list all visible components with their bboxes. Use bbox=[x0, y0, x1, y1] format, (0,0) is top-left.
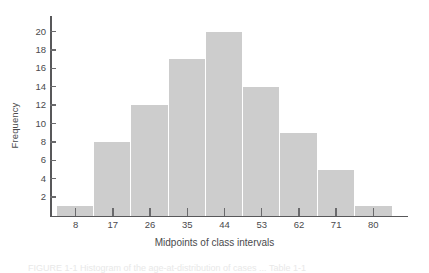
plot-area: 246810121416182081726354453627180 bbox=[0, 0, 429, 273]
y-axis-line bbox=[50, 16, 52, 217]
y-axis-tick-label-text: 10 bbox=[22, 119, 46, 129]
x-axis-tick-label: 53 bbox=[242, 220, 282, 230]
x-axis-tick-label: 44 bbox=[205, 220, 245, 230]
y-axis-tick bbox=[50, 86, 56, 87]
x-axis-tick-label: 80 bbox=[353, 220, 393, 230]
y-axis-tick-label-text: 18 bbox=[22, 45, 46, 55]
y-axis-tick-label-text: 6 bbox=[22, 155, 46, 165]
y-axis-tick-label: 20 bbox=[22, 27, 46, 37]
x-axis-tick bbox=[112, 208, 113, 216]
x-axis-tick bbox=[373, 208, 374, 216]
y-axis-tick bbox=[50, 31, 56, 32]
x-axis-tick bbox=[298, 208, 299, 216]
x-axis-tick bbox=[149, 208, 150, 216]
y-axis-tick-label-text: 16 bbox=[22, 63, 46, 73]
y-axis-tick bbox=[50, 196, 56, 197]
y-axis-tick bbox=[50, 123, 56, 124]
x-axis-line bbox=[50, 216, 408, 218]
y-axis-tick-label: 2 bbox=[22, 192, 46, 202]
x-axis-tick-label: 35 bbox=[167, 220, 207, 230]
y-axis-tick-label: 8 bbox=[22, 137, 46, 147]
x-axis-tick-label: 71 bbox=[316, 220, 356, 230]
x-axis-tick bbox=[75, 208, 76, 216]
y-axis-tick-label-text: 12 bbox=[22, 100, 46, 110]
x-axis-tick-label: 62 bbox=[279, 220, 319, 230]
y-axis-tick-label-text: 20 bbox=[22, 27, 46, 37]
y-axis-tick-label-text: 14 bbox=[22, 82, 46, 92]
y-axis-tick-label: 4 bbox=[22, 174, 46, 184]
x-axis-tick bbox=[224, 208, 225, 216]
x-axis-tick bbox=[335, 208, 336, 216]
histogram-bar bbox=[131, 105, 168, 215]
y-axis-tick-label: 18 bbox=[22, 45, 46, 55]
x-axis-title: Midpoints of class intervals bbox=[0, 237, 429, 248]
y-axis-tick-label-text: 8 bbox=[22, 137, 46, 147]
y-axis-tick bbox=[50, 104, 56, 105]
histogram-bar bbox=[206, 32, 243, 216]
y-axis-tick bbox=[50, 68, 56, 69]
x-axis-tick-label: 8 bbox=[56, 220, 96, 230]
y-axis-tick-label: 14 bbox=[22, 82, 46, 92]
y-axis-tick-label-text: 4 bbox=[22, 174, 46, 184]
y-axis-tick-label: 16 bbox=[22, 63, 46, 73]
y-axis-tick-label: 12 bbox=[22, 100, 46, 110]
y-axis-tick-label: 10 bbox=[22, 119, 46, 129]
y-axis-tick-label-text: 2 bbox=[22, 192, 46, 202]
x-axis-tick bbox=[187, 208, 188, 216]
x-axis-tick bbox=[261, 208, 262, 216]
histogram-figure: Frequency 246810121416182081726354453627… bbox=[0, 0, 429, 273]
y-axis-tick bbox=[50, 178, 56, 179]
y-axis-tick bbox=[50, 141, 56, 142]
y-axis-tick bbox=[50, 49, 56, 50]
y-axis-tick-label: 6 bbox=[22, 155, 46, 165]
x-axis-tick-label: 17 bbox=[93, 220, 133, 230]
histogram-bar bbox=[169, 59, 206, 215]
x-axis-tick-label: 26 bbox=[130, 220, 170, 230]
figure-caption: FIGURE 1-1 Histogram of the age-at-distr… bbox=[28, 263, 429, 273]
y-axis-tick bbox=[50, 160, 56, 161]
histogram-bar bbox=[280, 133, 317, 216]
histogram-bar bbox=[94, 142, 131, 216]
histogram-bar bbox=[243, 87, 280, 216]
